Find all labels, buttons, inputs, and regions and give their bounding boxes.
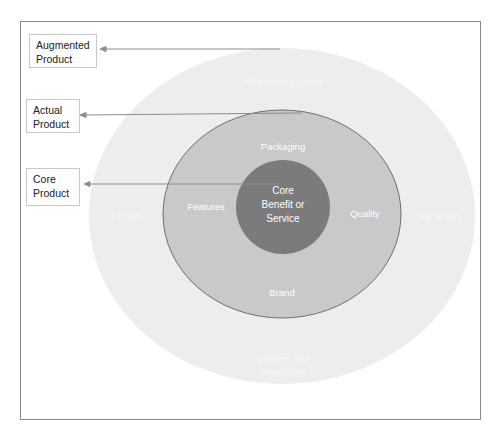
- core-benefit-line2: Benefit or: [243, 198, 323, 212]
- actual-product-label: Actual Product: [26, 99, 80, 133]
- features-text: Features: [176, 200, 236, 213]
- augmented-product-label: Augmented Product: [29, 34, 97, 68]
- core-benefit-line3: Service: [243, 212, 323, 226]
- core-benefit-text: Core Benefit or Service: [243, 184, 323, 226]
- actual-label-line2: Product: [33, 117, 73, 131]
- core-label-line2: Product: [33, 186, 73, 200]
- delivery-installation-text: Delivery and Installation: [238, 352, 328, 378]
- core-arrow-head-icon: [84, 182, 90, 187]
- credit-text: Credit: [100, 209, 160, 222]
- actual-label-line1: Actual: [33, 103, 73, 117]
- delivery-line1: Delivery and: [238, 352, 328, 365]
- actual-arrow-head-icon: [80, 113, 86, 118]
- augmented-label-line2: Product: [36, 52, 90, 66]
- core-benefit-line1: Core: [243, 184, 323, 198]
- augmented-label-line1: Augmented: [36, 38, 90, 52]
- brand-text: Brand: [252, 286, 312, 299]
- quality-text: Quality: [338, 207, 392, 220]
- delivery-line2: Installation: [238, 365, 328, 378]
- core-label-line1: Core: [33, 172, 73, 186]
- packaging-text: Packaging: [243, 140, 323, 153]
- core-product-label: Core Product: [26, 168, 80, 206]
- augmented-arrow-head-icon: [100, 47, 106, 52]
- warranties-text: Warranties: [408, 209, 470, 222]
- after-sales-support-text: After-sales support: [222, 75, 342, 88]
